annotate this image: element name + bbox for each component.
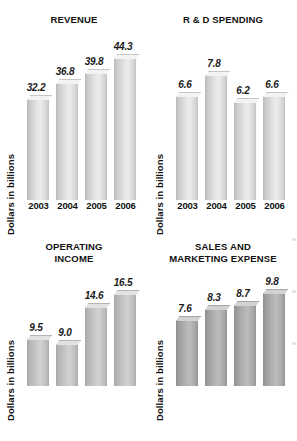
- bar-slot[interactable]: 9.8: [260, 268, 289, 386]
- bar-slot[interactable]: 6.2: [231, 30, 260, 200]
- bar-slot[interactable]: 39.8: [82, 30, 111, 200]
- charts-page: REVENUE Dollars in billions 32.2 36.8: [0, 0, 297, 441]
- bar-slot[interactable]: 32.2: [24, 30, 53, 200]
- bar-value-label: 32.2: [20, 82, 52, 93]
- y-axis-label-operating-income: Dollars in billions: [4, 278, 18, 386]
- y-axis-label-sales-marketing-expense: Dollars in billions: [153, 278, 167, 386]
- bar[interactable]: [205, 305, 227, 386]
- bar-slot[interactable]: 6.6: [173, 30, 202, 200]
- x-axis-tick-label: 2004: [202, 200, 231, 211]
- bar-face: [234, 102, 256, 200]
- bar-slot[interactable]: 8.3: [202, 268, 231, 386]
- y-axis-label-rd-spending: Dollars in billions: [153, 80, 167, 200]
- bar-value-label: 6.2: [227, 85, 259, 96]
- bar[interactable]: [176, 316, 198, 386]
- plot-area-operating-income: Dollars in billions 9.5 9.0: [0, 268, 148, 386]
- x-axis-years-revenue: 2003 2004 2005 2006: [24, 200, 142, 213]
- bar[interactable]: [176, 92, 198, 200]
- bar-face: [263, 293, 285, 386]
- page-edge-artifacts: [291, 238, 296, 358]
- bar-top-face: [176, 92, 201, 97]
- bar[interactable]: [263, 92, 285, 200]
- bar[interactable]: [114, 290, 136, 386]
- bar[interactable]: [234, 98, 256, 200]
- bar-slot[interactable]: 16.5: [111, 268, 140, 386]
- bar-top-face: [263, 92, 288, 97]
- bar-slot[interactable]: 9.0: [53, 268, 82, 386]
- bar-value-label: 6.6: [169, 79, 201, 90]
- bar-value-label: 9.0: [49, 327, 81, 338]
- bar-value-label: 8.7: [227, 288, 259, 299]
- bar[interactable]: [263, 289, 285, 386]
- bar-face: [176, 96, 198, 200]
- x-axis-tick-label: 2003: [24, 200, 53, 211]
- bar-value-label: 16.5: [107, 277, 139, 288]
- x-axis-years-rd-spending: 2003 2004 2005 2006: [173, 200, 291, 213]
- bar[interactable]: [85, 69, 107, 200]
- bar[interactable]: [114, 54, 136, 200]
- y-axis-label-text: Dollars in billions: [6, 153, 17, 234]
- bar[interactable]: [27, 335, 49, 386]
- bar-value-label: 39.8: [78, 56, 110, 67]
- bar-top-face: [114, 54, 139, 59]
- bar-value-label: 36.8: [49, 66, 81, 77]
- bar-top-face: [56, 340, 81, 345]
- bar-face: [85, 307, 107, 386]
- y-axis-label-text: Dollars in billions: [6, 340, 17, 421]
- bar-face: [205, 75, 227, 200]
- bar[interactable]: [234, 301, 256, 386]
- bar-face: [234, 305, 256, 386]
- x-axis-tick-label: 2005: [82, 200, 111, 211]
- bar-slot[interactable]: 44.3: [111, 30, 140, 200]
- bar-face: [27, 99, 49, 200]
- bar-group-sales-marketing-expense: 7.6 8.3 8.7: [173, 268, 291, 386]
- bar-top-face: [85, 69, 110, 74]
- chart-panel-revenue: REVENUE Dollars in billions 32.2 36.8: [0, 0, 148, 200]
- bar-value-label: 6.6: [256, 79, 288, 90]
- bar[interactable]: [56, 340, 78, 386]
- chart-title-operating-income: OPERATING INCOME: [0, 232, 148, 264]
- bar-top-face: [205, 305, 230, 310]
- bar-face: [56, 344, 78, 386]
- bar-group-rd-spending: 6.6 7.8 6.2: [173, 30, 291, 200]
- bar-slot[interactable]: 7.8: [202, 30, 231, 200]
- bar-value-label: 7.6: [169, 303, 201, 314]
- bar-top-face: [56, 79, 81, 84]
- chart-panel-rd-spending: R & D SPENDING Dollars in billions 6.6 7…: [149, 0, 297, 200]
- bar-face: [263, 96, 285, 200]
- bar-face: [114, 58, 136, 200]
- bar-top-face: [114, 290, 139, 295]
- bar-face: [56, 83, 78, 200]
- bar-slot[interactable]: 6.6: [260, 30, 289, 200]
- x-axis-tick-label: 2006: [260, 200, 289, 211]
- bar-value-label: 9.5: [20, 322, 52, 333]
- plot-area-rd-spending: Dollars in billions 6.6 7.8: [149, 30, 297, 200]
- bar[interactable]: [205, 71, 227, 200]
- bar-face: [114, 294, 136, 386]
- bar-top-face: [234, 98, 259, 103]
- bar-group-revenue: 32.2 36.8 39.8: [24, 30, 142, 200]
- bar[interactable]: [56, 79, 78, 200]
- bar-top-face: [234, 301, 259, 306]
- bar-top-face: [205, 71, 230, 76]
- chart-title-sales-marketing-expense: SALES AND MARKETING EXPENSE: [149, 232, 297, 264]
- x-axis-tick-label: 2005: [231, 200, 260, 211]
- bar[interactable]: [85, 303, 107, 386]
- bar[interactable]: [27, 95, 49, 200]
- bar-group-operating-income: 9.5 9.0 14.6: [24, 268, 142, 386]
- bar-face: [27, 339, 49, 386]
- bar-value-label: 44.3: [107, 41, 139, 52]
- y-axis-label-revenue: Dollars in billions: [4, 80, 18, 200]
- y-axis-label-text: Dollars in billions: [155, 153, 166, 234]
- chart-title-rd-spending: R & D SPENDING: [149, 0, 297, 26]
- bar-slot[interactable]: 7.6: [173, 268, 202, 386]
- bar-value-label: 9.8: [256, 276, 288, 287]
- x-axis-tick-label: 2006: [111, 200, 140, 211]
- plot-area-sales-marketing-expense: Dollars in billions 7.6 8.3: [149, 268, 297, 386]
- bar-value-label: 7.8: [198, 58, 230, 69]
- bar-value-label: 8.3: [198, 292, 230, 303]
- bar-top-face: [176, 316, 201, 321]
- bar-top-face: [263, 289, 288, 294]
- chart-panel-sales-marketing-expense: SALES AND MARKETING EXPENSE Dollars in b…: [149, 232, 297, 386]
- x-axis-tick-label: 2003: [173, 200, 202, 211]
